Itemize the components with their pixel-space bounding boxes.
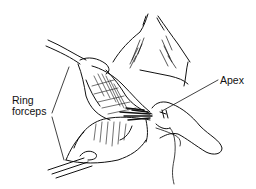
upper-tissue-drawing (113, 14, 190, 86)
peak-hatching (130, 36, 176, 68)
ring-forceps-leader-upper (52, 67, 69, 113)
apex-leader (162, 80, 218, 111)
ring-forceps-leader-lower (52, 117, 64, 160)
lower-flap-hatching (94, 122, 126, 146)
apex-label: Apex (220, 75, 244, 86)
apex-tissue-drawing (152, 102, 222, 154)
surgical-illustration: Ring forceps Apex (0, 0, 256, 189)
suture-thread-drawing (156, 128, 181, 184)
ring-forceps-label-line2: forceps (12, 106, 46, 117)
ring-forceps-label: Ring forceps (12, 95, 46, 117)
lower-ring-forceps-drawing (48, 151, 97, 178)
